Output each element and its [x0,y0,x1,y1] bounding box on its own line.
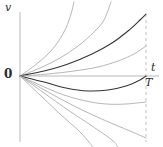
axes-group [20,12,159,142]
origin-label: 0 [4,68,12,80]
trajectory-figure: v t T 0 [0,0,163,147]
y-axis-label: v [5,2,11,13]
curve-lower-3-straight [20,76,118,147]
curve-upper-4-shallow [20,46,146,76]
curves-group [20,2,146,147]
x-axis-label: t [151,62,155,73]
plot-canvas [0,0,163,147]
terminal-time-label: T [145,77,152,88]
curve-axis-return-dark [20,76,146,91]
curve-lower-4-straight [20,76,93,147]
curve-upper-3-dark [20,14,146,76]
